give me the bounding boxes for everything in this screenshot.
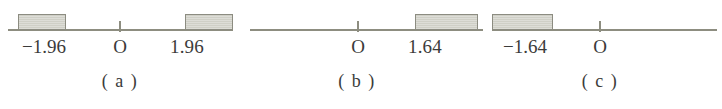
origin-tick-mark	[599, 21, 601, 32]
rejection-region-left	[18, 14, 66, 30]
origin-tick-mark	[357, 21, 359, 32]
panel-a: −1.96 O 1.96 ( a )	[0, 0, 241, 109]
critical-value-label-negative: −1.96	[2, 36, 86, 58]
panel-b: O 1.64 ( b )	[245, 0, 485, 109]
critical-value-label-positive: 1.64	[390, 36, 460, 58]
origin-label: O	[100, 36, 140, 58]
rejection-region-figure: −1.96 O 1.96 ( a ) O 1.64 ( b ) −1.64 O …	[0, 0, 722, 109]
panel-caption-c: ( c )	[550, 70, 650, 92]
origin-label: O	[338, 36, 378, 58]
rejection-region-right	[415, 14, 478, 30]
rejection-region-right	[185, 14, 233, 30]
origin-tick-mark	[119, 21, 121, 32]
panel-caption-b: ( b )	[307, 70, 407, 92]
panel-caption-a: ( a )	[70, 70, 170, 92]
critical-value-label-positive: 1.96	[152, 36, 222, 58]
critical-value-label-negative: −1.64	[483, 36, 567, 58]
origin-label: O	[580, 36, 620, 58]
rejection-region-left	[492, 14, 553, 30]
panel-c: −1.64 O ( c )	[487, 0, 722, 109]
